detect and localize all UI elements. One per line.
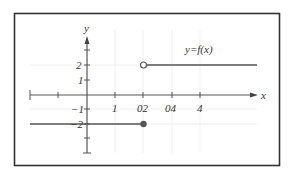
open-endpoint-circle <box>141 62 147 68</box>
chart-figure: y x y=f(x) 1 02 04 4 2 1 −1 −2 <box>0 0 295 174</box>
x-tick-label-4: 4 <box>197 102 203 114</box>
closed-endpoint-dot <box>140 121 146 127</box>
chart-frame <box>15 14 280 166</box>
chart-canvas: y x y=f(x) 1 02 04 4 2 1 −1 −2 <box>0 0 295 174</box>
y-tick-label-2: 2 <box>76 59 82 71</box>
x-axis-label: x <box>260 89 266 101</box>
x-tick-label-3: 04 <box>165 102 177 114</box>
y-tick-label-minus-2: −2 <box>70 118 83 130</box>
y-tick-label-1: 1 <box>78 74 84 86</box>
x-tick-label-1: 1 <box>112 102 118 114</box>
x-tick-label-2: 02 <box>137 102 149 114</box>
y-axis-label: y <box>83 22 89 34</box>
y-tick-label-minus-1: −1 <box>71 103 84 115</box>
function-label: y=f(x) <box>184 43 213 56</box>
